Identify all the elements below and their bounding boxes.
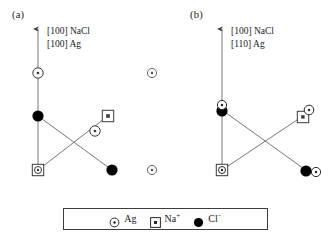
ag-atom-icon xyxy=(311,167,320,176)
ag-atom-icon xyxy=(304,105,314,115)
legend-label-na-charge: + xyxy=(176,212,180,220)
legend-label-ag: Ag xyxy=(124,214,136,224)
legend-entry-ag: Ag xyxy=(109,214,136,225)
bond-line xyxy=(222,116,303,170)
panel-b-film-direction: [110] Ag xyxy=(231,38,274,51)
panel-a-film-direction: [100] Ag xyxy=(47,38,90,51)
ag-atom-icon xyxy=(147,165,156,174)
panel-a-tag: (a) xyxy=(12,9,24,20)
legend-label-na-text: Na xyxy=(165,213,177,224)
legend-label-cl-text: Cl xyxy=(208,213,217,224)
panel-a-direction-labels: [100] NaCl [100] Ag xyxy=(47,25,90,50)
legend-label-na: Na+ xyxy=(165,214,181,224)
ag-atom-icon xyxy=(217,100,226,109)
cl-atom-icon xyxy=(32,110,43,121)
legend: Ag Na+ Cl− xyxy=(63,208,268,230)
panel-b-bonds xyxy=(222,74,307,171)
legend-label-cl-charge: − xyxy=(218,212,222,220)
panel-b-tag: (b) xyxy=(190,9,203,20)
ag-atom-icon xyxy=(147,68,156,77)
na-atom-icon xyxy=(102,110,113,121)
legend-entry-na: Na+ xyxy=(150,214,181,225)
panel-b-direction-labels: [100] NaCl [110] Ag xyxy=(231,25,274,50)
legend-label-cl: Cl− xyxy=(208,214,221,224)
panel-a-graphics xyxy=(32,29,156,176)
ag-atom-icon xyxy=(90,126,100,136)
panel-a-bonds xyxy=(38,73,112,170)
ag-atom-icon xyxy=(219,167,226,174)
panel-a-substrate-direction: [100] NaCl xyxy=(47,25,90,38)
cl-atom-icon xyxy=(300,165,311,176)
cl-filled-circle-icon xyxy=(193,214,204,225)
panel-b-graphics xyxy=(216,29,320,177)
ag-atom-icon xyxy=(35,167,42,174)
panel-b-substrate-direction: [100] NaCl xyxy=(231,25,274,38)
na-square-icon xyxy=(150,214,161,225)
figure-root: (a) (b) [100] NaCl [100] Ag [100] NaCl [… xyxy=(0,0,335,238)
cl-atom-icon xyxy=(106,164,117,175)
ag-atom-icon xyxy=(33,68,43,78)
ag-circle-icon xyxy=(109,214,120,225)
legend-entry-cl: Cl− xyxy=(193,214,221,225)
